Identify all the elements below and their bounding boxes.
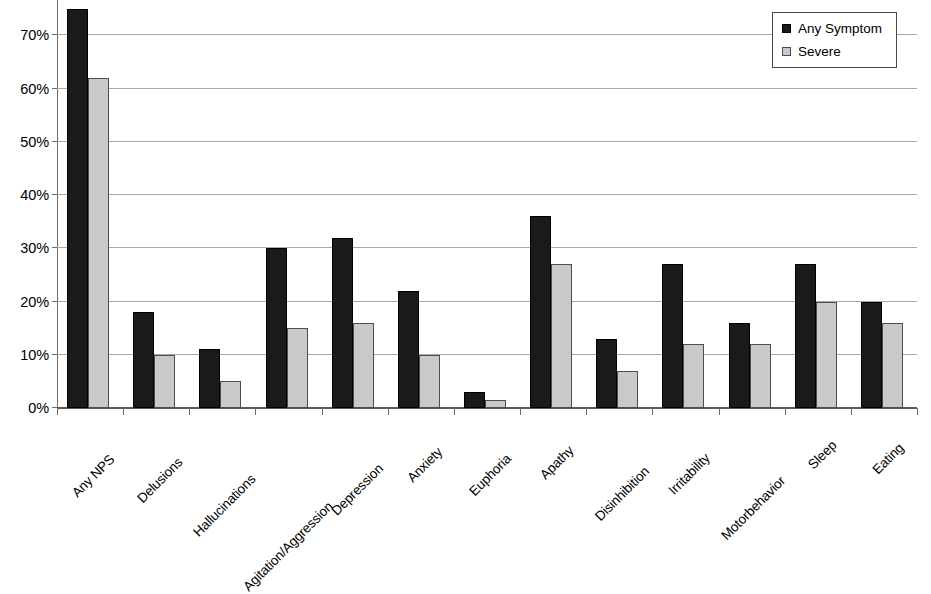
x-axis-category-label-text: Disinhibition [592, 464, 652, 524]
bar [67, 9, 88, 408]
bar [266, 248, 287, 408]
x-axis-category-label: Anxiety [435, 414, 476, 455]
x-tick-mark [454, 408, 455, 415]
x-axis-category-label-text: Agitation/Aggression [240, 499, 335, 594]
x-tick-mark [322, 408, 323, 415]
bar [419, 355, 440, 408]
x-axis-category-label: Eating [896, 414, 931, 451]
bar [683, 344, 704, 408]
bar [861, 302, 882, 409]
x-tick-mark [785, 408, 786, 415]
x-tick-mark [520, 408, 521, 415]
y-gridline [57, 194, 917, 195]
x-tick-mark [388, 408, 389, 415]
x-axis-category-label-text: Motorbehavior [718, 473, 788, 543]
bar [133, 312, 154, 408]
light-square-icon [782, 47, 791, 56]
legend-item-label: Severe [798, 44, 841, 59]
bar [662, 264, 683, 408]
legend-item-label: Any Symptom [798, 21, 882, 36]
y-tick-mark [52, 354, 57, 355]
y-gridline [57, 141, 917, 142]
bar [287, 328, 308, 408]
bar [530, 216, 551, 408]
x-axis-category-label: Agitation/Aggression [325, 414, 420, 509]
x-axis-category-label-text: Anxiety [404, 444, 445, 485]
x-tick-mark [255, 408, 256, 415]
bar [795, 264, 816, 408]
dark-square-icon [782, 24, 791, 33]
y-gridline [57, 301, 917, 302]
x-tick-mark [57, 408, 58, 415]
x-tick-mark [189, 408, 190, 415]
x-axis-category-label-text: Hallucinations [190, 471, 258, 539]
bar [332, 238, 353, 408]
bar [882, 323, 903, 408]
x-axis-category-label: Hallucinations [248, 414, 316, 482]
y-tick-mark [52, 301, 57, 302]
x-axis-category-label: Euphoria [504, 414, 552, 462]
x-tick-mark [652, 408, 653, 415]
x-tick-mark [586, 408, 587, 415]
y-tick-label: 10% [20, 347, 49, 363]
y-tick-label: 40% [20, 187, 49, 203]
x-tick-mark [719, 408, 720, 415]
x-axis-category-label-text: Any NPS [69, 452, 117, 500]
x-axis-line [57, 408, 918, 409]
y-tick-label: 60% [20, 81, 49, 97]
y-tick-label: 70% [20, 27, 49, 43]
x-tick-mark [917, 408, 918, 415]
x-tick-mark [123, 408, 124, 415]
x-axis-category-label-text: Euphoria [467, 451, 515, 499]
bar [353, 323, 374, 408]
legend-item-any-symptom: Any Symptom [782, 21, 882, 36]
bar [729, 323, 750, 408]
y-tick-mark [52, 141, 57, 142]
x-axis-category-label-text: Irritability [665, 450, 712, 497]
chart-legend: Any Symptom Severe [772, 12, 897, 68]
y-tick-label: 20% [20, 294, 49, 310]
x-axis-category-label-text: Apathy [538, 443, 577, 482]
bar [551, 264, 572, 408]
bar [596, 339, 617, 408]
y-tick-label: 0% [28, 400, 49, 416]
bar [220, 381, 241, 408]
bar [816, 302, 837, 409]
x-axis-category-label-text: Eating [870, 440, 907, 477]
y-tick-label: 50% [20, 134, 49, 150]
bar [617, 371, 638, 408]
y-tick-mark [52, 34, 57, 35]
bar [398, 291, 419, 408]
y-gridline [57, 247, 917, 248]
y-gridline [57, 88, 917, 89]
y-tick-mark [52, 247, 57, 248]
legend-item-severe: Severe [782, 44, 841, 59]
x-axis-category-label: Any NPS [107, 414, 155, 462]
bar [485, 400, 506, 408]
x-axis-category-label: Apathy [566, 414, 605, 453]
bar [88, 78, 109, 408]
y-gridline [57, 354, 917, 355]
bar [464, 392, 485, 408]
x-axis-category-label: Irritability [702, 414, 749, 461]
x-axis-category-label: Delusions [174, 414, 225, 465]
y-tick-mark [52, 194, 57, 195]
bar [199, 349, 220, 408]
y-tick-mark [52, 88, 57, 89]
x-axis-category-label-text: Delusions [134, 455, 185, 506]
bar [750, 344, 771, 408]
y-tick-label: 30% [20, 240, 49, 256]
bar [154, 355, 175, 408]
